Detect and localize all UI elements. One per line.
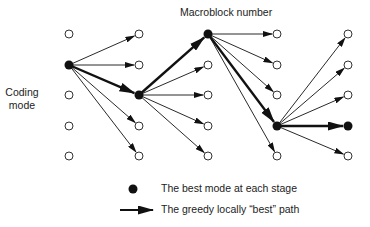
best-mode-node — [65, 61, 74, 70]
mode-node — [204, 122, 212, 130]
transition-arrow — [208, 34, 273, 92]
mode-node — [65, 91, 73, 99]
coding-mode-label-line2: mode — [2, 99, 42, 112]
transition-arrow — [139, 95, 203, 124]
mode-node — [135, 152, 143, 160]
transition-arrow — [69, 36, 134, 65]
best-mode-node — [204, 30, 213, 39]
mode-node — [65, 122, 73, 130]
mode-node — [204, 61, 212, 69]
legend-greedy-path-text: The greedy locally “best” path — [161, 203, 299, 215]
transition-arrow — [139, 95, 204, 153]
mode-node — [204, 152, 212, 160]
transition-arrow — [69, 65, 135, 123]
best-mode-node — [344, 122, 353, 131]
mode-node — [65, 152, 73, 160]
coding-mode-label-line1: Coding — [2, 86, 42, 99]
mode-node — [344, 61, 352, 69]
mode-node — [65, 30, 73, 38]
mode-node — [344, 152, 352, 160]
mode-node — [273, 91, 281, 99]
mode-node — [135, 61, 143, 69]
best-mode-node — [135, 91, 144, 100]
greedy-path-arrow — [139, 37, 204, 95]
legend-best-mode-text: The best mode at each stage — [161, 182, 297, 194]
greedy-path-arrow — [69, 65, 134, 93]
mode-node — [135, 30, 143, 38]
legend-best-mode-dot-icon — [129, 185, 138, 194]
macroblock-number-label: Macroblock number — [180, 6, 272, 18]
mode-node — [135, 122, 143, 130]
mode-node — [204, 91, 212, 99]
mode-node — [273, 30, 281, 38]
transition-arrow — [277, 126, 343, 154]
legend-symbols — [120, 185, 153, 211]
greedy-path-arrow — [208, 34, 274, 122]
transition-arrow — [277, 38, 345, 126]
mode-nodes — [65, 30, 353, 161]
coding-mode-label: Coding mode — [2, 86, 42, 112]
transition-arrow — [139, 67, 203, 95]
best-mode-node — [273, 122, 282, 131]
mode-node — [344, 30, 352, 38]
transition-arrow — [277, 97, 343, 126]
mode-node — [344, 91, 352, 99]
mode-node — [273, 152, 281, 160]
transition-arrow — [277, 68, 344, 126]
mode-node — [273, 61, 281, 69]
transition-arrow — [208, 34, 275, 152]
